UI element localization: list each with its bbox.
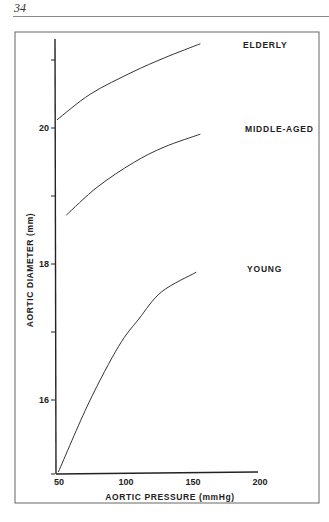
x-tick-label: 100 [118, 477, 133, 487]
y-axis-line [55, 39, 56, 474]
chart: 16182050100150200AORTIC PRESSURE (mmHg)A… [0, 0, 329, 522]
series-line-elderly [57, 44, 200, 120]
y-tick-label: 16 [39, 395, 49, 405]
series-label-middle-aged: MIDDLE-AGED [245, 124, 314, 134]
x-axis-title: AORTIC PRESSURE (mmHg) [105, 492, 234, 502]
x-tick-label: 150 [185, 477, 200, 487]
axes: 16182050100150200AORTIC PRESSURE (mmHg)A… [25, 39, 268, 502]
y-tick-label: 18 [39, 259, 49, 269]
x-tick-label: 50 [54, 477, 64, 487]
series-line-young [58, 272, 196, 472]
series-label-young: YOUNG [247, 264, 282, 274]
series-labels: ELDERLYMIDDLE-AGEDYOUNG [243, 40, 314, 274]
x-axis-line [56, 472, 258, 474]
series-lines [57, 44, 200, 472]
x-tick-label: 200 [252, 477, 267, 487]
y-axis-title: AORTIC DIAMETER (mm) [25, 213, 35, 327]
series-line-middle-aged [66, 134, 200, 215]
y-tick-label: 20 [39, 123, 49, 133]
series-label-elderly: ELDERLY [243, 40, 288, 50]
